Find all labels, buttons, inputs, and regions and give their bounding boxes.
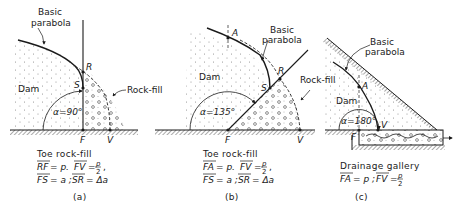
label-v: V [381, 120, 388, 130]
point-v [108, 128, 111, 131]
point-f [81, 128, 84, 131]
label-r: R [86, 62, 92, 72]
eq-value: = p. [216, 162, 235, 172]
point-a [357, 85, 360, 88]
angle-label: α=180° [341, 116, 376, 126]
panel-title: Toe rock-fill [202, 149, 258, 159]
label-r: R [278, 66, 284, 76]
parabola-label: Basic [38, 7, 62, 17]
panel-a: Basic parabola Dam Rock-fill α=90° R S F… [10, 7, 162, 202]
eq-term: FS [203, 175, 214, 185]
dam-label: Dam [199, 72, 220, 82]
parabola-label: Basic [270, 25, 294, 35]
svg-text:,: , [269, 162, 272, 172]
panel-label: (c) [355, 192, 368, 202]
panel-label: (b) [225, 192, 239, 202]
point-r [81, 70, 84, 73]
seepage-diagram: Basic parabola Dam Rock-fill α=90° R S F… [0, 0, 465, 211]
gallery-base-hatch [352, 145, 445, 150]
equation-line-1: FA = p ; FV = p 2 [340, 172, 403, 188]
label-f: F [351, 132, 357, 142]
eq-term: FA [203, 162, 214, 172]
label-a: A [231, 28, 238, 38]
label-a: A [361, 81, 368, 91]
point-f [226, 128, 229, 131]
eq-value: = Δa [86, 175, 108, 185]
eq-term: SR [72, 175, 84, 185]
label-f: F [80, 135, 86, 145]
equation-line-1: RF = p. FV = p 2 , [37, 160, 106, 176]
point-v [298, 128, 301, 131]
parabola-label-2: parabola [31, 18, 71, 28]
svg-text:=: = [254, 162, 262, 172]
dam-label: Dam [18, 84, 39, 94]
eq-term: RF [37, 162, 49, 172]
panel-b: Basic parabola Dam Rock-fill α=135° A R … [155, 25, 335, 202]
point-s [268, 86, 271, 89]
label-v: V [297, 135, 304, 145]
rockfill-label: Rock-fill [127, 85, 162, 95]
eq-term: FV [74, 162, 86, 172]
eq-term: FV [240, 162, 252, 172]
label-v: V [107, 135, 114, 145]
dam-label: Dam [336, 96, 357, 106]
ground-hatch [10, 130, 138, 135]
svg-text:=: = [390, 174, 398, 184]
eq-value: = Δa [252, 175, 274, 185]
point-v [376, 128, 379, 131]
label-f: F [225, 135, 231, 145]
label-s: S [261, 83, 267, 93]
point-a [226, 36, 229, 39]
panel-label: (a) [73, 192, 86, 202]
eq-value: = p. [50, 162, 69, 172]
eq-term: FS [37, 175, 48, 185]
equation-line-2: FS = a ; SR = Δa [37, 174, 108, 185]
equation-line-1: FA = p. FV = p 2 , [203, 160, 272, 176]
eq-term: FV [376, 174, 388, 184]
eq-value: = a ; [50, 175, 72, 185]
angle-label: α=135° [200, 107, 235, 117]
eq-term: SR [238, 175, 250, 185]
equation-line-2: FS = a ; SR = Δa [203, 174, 274, 185]
point-r [278, 77, 281, 80]
eq-value: = a ; [216, 175, 238, 185]
ground-hatch [155, 130, 315, 135]
parabola-label-2: parabola [365, 47, 405, 57]
rockfill-region [83, 70, 125, 130]
point-s [81, 86, 84, 89]
label-s: S [74, 80, 80, 90]
panel-title: Drainage gallery [340, 161, 420, 171]
panel-title: Toe rock-fill [36, 149, 92, 159]
panel-c: Basic parabola Dam α=180° A F V Drainage… [322, 37, 452, 202]
svg-text:=: = [88, 162, 96, 172]
point-f [357, 128, 360, 131]
svg-text:,: , [103, 162, 106, 172]
eq-value: = p ; [353, 174, 375, 184]
parabola-label: Basic [370, 37, 394, 47]
eq-denominator: 2 [398, 180, 402, 188]
parabola-label-2: parabola [262, 35, 302, 45]
angle-label: α=90° [53, 107, 82, 117]
eq-term: FA [340, 174, 351, 184]
